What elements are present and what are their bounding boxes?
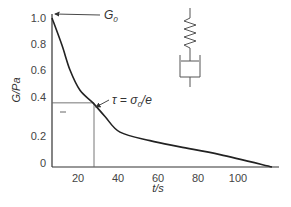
y-tick-label: 0 — [40, 157, 46, 169]
y-tick-label: 0.6 — [31, 64, 46, 76]
g0-label: G0 — [104, 8, 118, 24]
tau-arrow — [96, 100, 109, 107]
tau-label: τ = σ0/e — [112, 93, 152, 109]
y-tick-label: 0.2 — [31, 130, 46, 142]
x-tick-label: 40 — [112, 172, 124, 184]
x-tick-label: 20 — [72, 172, 84, 184]
spring-icon — [184, 18, 196, 48]
x-axis-label: t/s — [152, 182, 164, 194]
y-tick-labels: 00.20.40.60.81.0 — [31, 12, 46, 169]
y-tick-label: 0.8 — [31, 38, 46, 50]
relaxation-curve — [52, 18, 272, 167]
y-tick-label: 0.4 — [31, 91, 46, 103]
x-tick-label: 100 — [229, 172, 247, 184]
maxwell-model-icon — [180, 8, 200, 87]
relaxation-chart: 20406080100 00.20.40.60.81.0 t/s G/Pa G0… — [0, 0, 291, 207]
g0-arrow — [55, 14, 100, 15]
y-axis-label: G/Pa — [10, 77, 22, 102]
x-tick-label: 80 — [192, 172, 204, 184]
y-tick-label: 1.0 — [31, 12, 46, 24]
